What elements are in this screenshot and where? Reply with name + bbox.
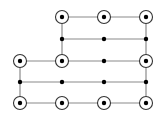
dot-node — [102, 37, 106, 41]
dot-icon — [60, 59, 64, 63]
dot-icon — [18, 101, 22, 105]
dot-icon — [102, 15, 106, 19]
dot-icon — [60, 37, 64, 41]
circled-node — [56, 11, 69, 24]
circled-node — [56, 55, 69, 68]
circled-node — [14, 97, 27, 110]
dot-icon — [144, 101, 148, 105]
circled-node — [140, 55, 153, 68]
dot-node — [60, 80, 64, 84]
dot-icon — [144, 15, 148, 19]
circled-node — [14, 55, 27, 68]
circled-node — [98, 97, 111, 110]
dot-icon — [144, 80, 148, 84]
grid-graph-diagram — [0, 0, 167, 120]
dot-icon — [60, 101, 64, 105]
dot-icon — [60, 80, 64, 84]
dot-icon — [102, 59, 106, 63]
dot-icon — [18, 80, 22, 84]
dot-icon — [18, 59, 22, 63]
dot-node — [18, 80, 22, 84]
circled-node — [98, 11, 111, 24]
dot-node — [102, 59, 106, 63]
dot-icon — [102, 80, 106, 84]
circled-node — [140, 11, 153, 24]
dot-icon — [102, 37, 106, 41]
edges-layer — [20, 17, 146, 103]
dot-icon — [60, 15, 64, 19]
dot-node — [102, 80, 106, 84]
circled-node — [140, 97, 153, 110]
dot-icon — [102, 101, 106, 105]
dot-node — [144, 80, 148, 84]
dot-node — [60, 37, 64, 41]
dot-icon — [144, 59, 148, 63]
dot-node — [144, 37, 148, 41]
dot-icon — [144, 37, 148, 41]
nodes-layer — [14, 11, 153, 110]
circled-node — [56, 97, 69, 110]
